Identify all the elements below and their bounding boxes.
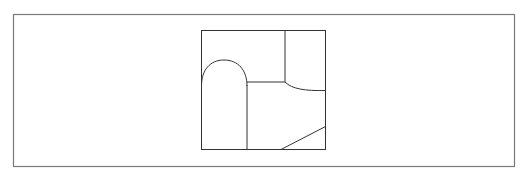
floor-plan-diagram <box>0 0 530 179</box>
